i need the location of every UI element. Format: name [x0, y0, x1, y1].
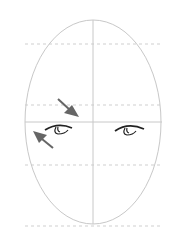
left-eye-icon: [45, 125, 72, 134]
right-eye-icon: [115, 126, 144, 135]
face-proportion-diagram: [0, 0, 187, 237]
arrow-down-right-icon: [58, 99, 79, 117]
arrow-up-left-icon: [33, 131, 53, 148]
